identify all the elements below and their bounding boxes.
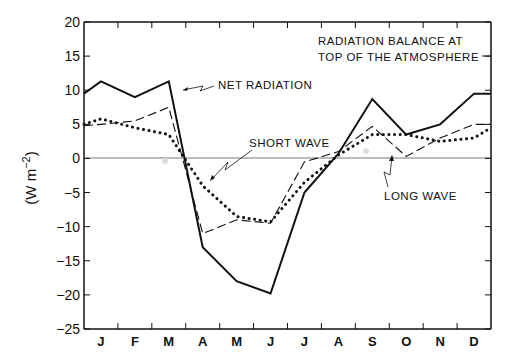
y-tick-label: 5 [72, 116, 80, 132]
y-tick-label: −20 [56, 287, 80, 303]
net-radiation-pointer [183, 86, 214, 91]
long-wave-line [84, 107, 491, 233]
arrow-icon [210, 175, 215, 181]
y-tick-label: −15 [56, 253, 80, 269]
scan-artifact [363, 148, 369, 154]
y-axis-label: (W m−2) [20, 151, 39, 204]
y-tick-label: −25 [56, 321, 80, 337]
x-tick-label: J [301, 334, 308, 349]
arrow-icon [183, 87, 188, 91]
chart-title: RADIATION BALANCE AT [318, 35, 463, 47]
y-tick-label: −10 [56, 219, 80, 235]
chart-subtitle: TOP OF THE ATMOSPHERE [318, 51, 479, 63]
net-radiation-line [84, 81, 491, 293]
scan-artifact [162, 158, 168, 164]
x-tick-label: D [469, 334, 478, 349]
y-tick-label: 10 [64, 82, 80, 98]
radiation-balance-chart: 20151050−5−10−15−20−25 JFMAMJJASOND (W m… [0, 0, 506, 362]
y-tick-label: 0 [72, 150, 80, 166]
long-wave-label: LONG WAVE [384, 190, 457, 202]
x-axis-ticks: JFMAMJJASOND [97, 22, 478, 349]
series-group [84, 81, 491, 293]
x-tick-label: N [435, 334, 444, 349]
x-tick-label: S [368, 334, 377, 349]
short-wave-pointer [211, 150, 252, 180]
x-tick-label: A [198, 334, 208, 349]
y-tick-label: 15 [64, 48, 80, 64]
short-wave-label: SHORT WAVE [249, 137, 330, 149]
x-tick-label: M [163, 334, 174, 349]
short-wave-line [84, 119, 491, 222]
x-tick-label: J [97, 334, 104, 349]
y-tick-label: −5 [64, 185, 80, 201]
x-tick-label: A [334, 334, 344, 349]
x-tick-label: J [267, 334, 274, 349]
x-tick-label: F [131, 334, 139, 349]
x-tick-label: O [401, 334, 411, 349]
plot-frame [84, 22, 491, 329]
y-tick-label: 20 [64, 14, 80, 30]
x-tick-label: M [231, 334, 242, 349]
net-radiation-label: NET RADIATION [218, 79, 312, 91]
